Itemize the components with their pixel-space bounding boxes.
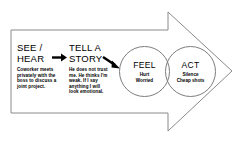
process-arrow-diagram: SEE / HEAR Coworker meets privately with… [0,0,245,143]
stage-tell-story: TELL A STORY He does not trust me. He th… [69,43,109,95]
stage-feel-heading: FEEL [133,60,155,70]
stage-act-detail: Silence Cheap shots [177,72,205,83]
stage-see-hear-detail: Coworker meets privately with the boss t… [17,67,57,89]
stage-act-heading: ACT [182,60,200,70]
stage-see-hear-heading: SEE / HEAR [17,43,57,64]
stage-tell-story-detail: He does not trust me. He thinks I'm weak… [69,67,109,95]
stage-act-circle: ACT Silence Cheap shots [165,46,216,97]
stage-tell-story-heading: TELL A STORY [69,43,109,64]
stage-feel-detail: Hurt Worried [136,72,153,83]
stage-feel-circle: FEEL Hurt Worried [119,46,170,97]
stage-see-hear: SEE / HEAR Coworker meets privately with… [17,43,57,89]
